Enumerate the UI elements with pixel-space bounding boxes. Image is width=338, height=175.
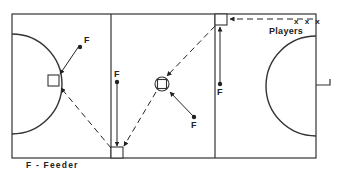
feeder-dot-center-right [192,115,196,119]
station-center-square [158,80,167,89]
run-to-left-station [61,88,111,148]
goal-icon [316,79,330,85]
players-marks: x x x [294,18,322,26]
station-top-right [215,14,227,25]
players-label: Players [269,27,303,36]
station-left-circle [48,75,59,86]
feeder-dot-left [78,45,82,49]
feeder-label-center-left: F [114,70,120,79]
run-to-bottom-station [124,92,156,146]
feeder-label-left: F [84,36,90,45]
feeder-label-right: F [217,88,223,97]
right-shooting-circle [266,36,316,136]
feed-pass-left [60,46,79,74]
legend-feeder: F - Feeder [26,161,79,170]
feeder-label-center-right: F [191,121,197,130]
feeder-dot-center-left [115,80,119,84]
feeder-dot-right [218,82,222,86]
run-to-center-station [167,26,215,76]
feed-pass-center-right [170,92,194,117]
station-bottom-center [111,147,123,158]
